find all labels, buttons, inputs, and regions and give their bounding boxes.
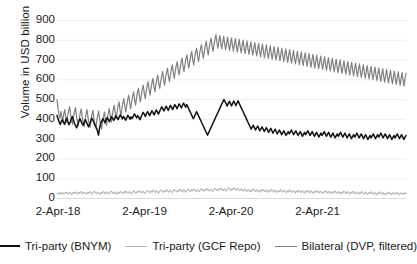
legend-item[interactable]: Tri-party (BNYM): [0, 240, 111, 252]
legend-item[interactable]: Bilateral (DVP, filtered): [275, 240, 417, 252]
x-tick-label: 2-Apr-18: [36, 204, 81, 218]
legend-label: Tri-party (BNYM): [25, 240, 111, 252]
legend-swatch-icon: [275, 246, 297, 247]
series-line: [57, 188, 406, 195]
series-line: [57, 35, 406, 129]
x-tick-label: 2-Apr-19: [122, 204, 167, 218]
x-tick-label: 2-Apr-21: [295, 204, 340, 218]
legend-label: Tri-party (GCF Repo): [152, 240, 260, 252]
x-tick-label: 2-Apr-20: [209, 204, 254, 218]
legend-label: Bilateral (DVP, filtered): [302, 240, 417, 252]
chart-legend: Tri-party (BNYM)Tri-party (GCF Repo)Bila…: [0, 236, 415, 256]
legend-swatch-icon: [125, 246, 147, 247]
legend-swatch-icon: [0, 245, 20, 247]
legend-item[interactable]: Tri-party (GCF Repo): [125, 240, 260, 252]
x-axis-ticks: 2-Apr-182-Apr-192-Apr-202-Apr-21: [0, 204, 415, 222]
